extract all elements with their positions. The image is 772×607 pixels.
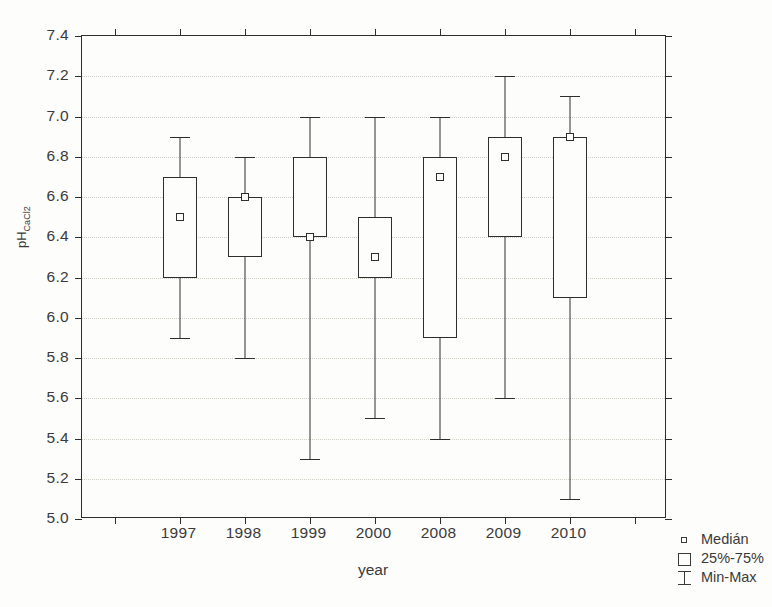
y-tick-mark-right — [665, 117, 672, 118]
y-tick-mark — [75, 318, 82, 319]
y-tick-mark-right — [665, 318, 672, 319]
lower-whisker-line — [179, 278, 180, 338]
lower-whisker-line — [504, 237, 505, 398]
x-tick-mark-top — [310, 29, 311, 36]
x-tick-mark-top — [440, 29, 441, 36]
legend-label: Min-Max — [701, 568, 757, 587]
upper-whisker-line — [504, 76, 505, 136]
y-tick-mark-right — [665, 479, 672, 480]
x-tick-mark — [115, 517, 116, 524]
y-axis: 7.47.27.06.86.66.46.26.05.85.65.45.25.0 — [0, 0, 81, 607]
y-axis-title-subscript: CaCl2 — [22, 206, 32, 231]
y-tick-mark — [75, 76, 82, 77]
iqr-box — [163, 177, 197, 278]
x-tick-label-2008: 2008 — [421, 524, 457, 542]
y-tick-label: 6.0 — [47, 308, 69, 326]
max-cap — [235, 157, 255, 158]
lower-whisker-line — [569, 298, 570, 499]
y-tick-label: 5.4 — [47, 429, 69, 447]
x-tick-mark — [245, 517, 246, 524]
min-cap — [365, 418, 385, 419]
iqr-box — [358, 217, 392, 277]
min-cap — [430, 439, 450, 440]
x-tick-mark-top — [635, 29, 636, 36]
x-tick-mark-top — [180, 29, 181, 36]
y-tick-mark-right — [665, 36, 672, 37]
y-tick-mark-right — [665, 237, 672, 238]
iqr-box — [488, 137, 522, 238]
legend-item-median-marker-icon: Medián — [676, 530, 764, 549]
legend-item-whisker-icon: Min-Max — [676, 568, 764, 587]
x-tick-label-1997: 1997 — [161, 524, 197, 542]
min-cap — [235, 358, 255, 359]
x-tick-mark — [375, 517, 376, 524]
whisker-icon — [676, 570, 696, 586]
upper-whisker-line — [179, 137, 180, 177]
y-tick-label: 6.8 — [47, 147, 69, 165]
x-tick-mark — [310, 517, 311, 524]
box-plot-figure: 7.47.27.06.86.66.46.26.05.85.65.45.25.0 … — [0, 0, 772, 607]
box-plot-1998 — [215, 36, 275, 517]
max-cap — [365, 117, 385, 118]
min-cap — [300, 459, 320, 460]
min-cap — [495, 398, 515, 399]
box-plot-2010 — [540, 36, 600, 517]
lower-whisker-line — [244, 257, 245, 358]
legend-label: 25%-75% — [701, 549, 764, 568]
x-tick-label-2000: 2000 — [356, 524, 392, 542]
median-marker-icon — [176, 213, 184, 221]
iqr-box — [423, 157, 457, 338]
y-tick-mark-right — [665, 519, 672, 520]
y-tick-mark — [75, 479, 82, 480]
y-tick-mark-right — [665, 76, 672, 77]
y-tick-label: 7.4 — [47, 26, 69, 44]
y-tick-label: 7.0 — [47, 107, 69, 125]
lower-whisker-line — [309, 237, 310, 458]
iqr-box — [228, 197, 262, 257]
y-tick-label: 5.0 — [47, 509, 69, 527]
max-cap — [560, 96, 580, 97]
x-tick-mark-top — [375, 29, 376, 36]
y-tick-mark — [75, 117, 82, 118]
box-plot-1997 — [150, 36, 210, 517]
y-tick-label: 5.6 — [47, 388, 69, 406]
y-tick-mark — [75, 519, 82, 520]
x-tick-label-1999: 1999 — [291, 524, 327, 542]
y-tick-label: 6.6 — [47, 187, 69, 205]
y-tick-mark — [75, 439, 82, 440]
x-tick-mark — [440, 517, 441, 524]
y-tick-label: 5.8 — [47, 348, 69, 366]
y-tick-label: 6.2 — [47, 268, 69, 286]
box-icon — [676, 551, 696, 567]
max-cap — [170, 137, 190, 138]
legend: Medián25%-75%Min-Max — [676, 530, 764, 587]
upper-whisker-line — [244, 157, 245, 197]
plot-area — [81, 35, 666, 518]
max-cap — [430, 117, 450, 118]
upper-whisker-line — [309, 117, 310, 157]
upper-whisker-line — [374, 117, 375, 218]
y-tick-mark-right — [665, 157, 672, 158]
x-tick-mark-top — [115, 29, 116, 36]
min-cap — [560, 499, 580, 500]
y-tick-mark-right — [665, 197, 672, 198]
x-tick-mark — [180, 517, 181, 524]
x-axis-title: year — [358, 561, 388, 579]
median-marker-icon — [566, 133, 574, 141]
y-tick-mark — [75, 278, 82, 279]
legend-item-box-icon: 25%-75% — [676, 549, 764, 568]
x-tick-mark — [570, 517, 571, 524]
y-tick-mark — [75, 157, 82, 158]
median-marker-icon — [436, 173, 444, 181]
y-tick-mark — [75, 197, 82, 198]
y-axis-title: pHCaCl2 — [14, 206, 32, 248]
x-tick-mark-top — [570, 29, 571, 36]
upper-whisker-line — [439, 117, 440, 157]
y-tick-mark-right — [665, 439, 672, 440]
y-tick-mark — [75, 36, 82, 37]
box-plot-2009 — [475, 36, 535, 517]
iqr-box — [293, 157, 327, 238]
box-plot-2008 — [410, 36, 470, 517]
y-tick-label: 5.2 — [47, 469, 69, 487]
median-marker-icon — [306, 233, 314, 241]
